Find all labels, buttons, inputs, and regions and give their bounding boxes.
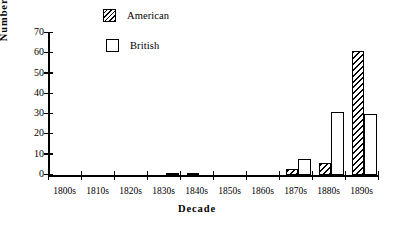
x-axis-title: Decade bbox=[0, 203, 394, 214]
y-tick-mark bbox=[44, 32, 53, 33]
x-tick-label: 1890s bbox=[340, 186, 384, 197]
legend-item-american: American bbox=[103, 8, 169, 22]
y-axis-title: Number of Papers bbox=[0, 0, 9, 58]
legend-swatch-american-icon bbox=[103, 9, 116, 22]
x-tick-mark bbox=[345, 171, 346, 180]
y-tick-label: 20 bbox=[22, 127, 44, 139]
x-tick-mark bbox=[378, 171, 379, 180]
bar-american-1890s bbox=[352, 51, 364, 175]
legend-label-american: American bbox=[127, 9, 169, 22]
bar-british-1890s bbox=[364, 114, 376, 175]
y-tick-mark bbox=[44, 133, 53, 134]
x-tick-mark bbox=[213, 171, 214, 180]
y-tick-label: 10 bbox=[22, 148, 44, 160]
y-tick-label: 0 bbox=[22, 168, 44, 180]
x-tick-mark bbox=[48, 171, 49, 180]
y-tick-mark bbox=[44, 72, 53, 73]
bar-american-1840s bbox=[187, 173, 199, 175]
x-tick-mark bbox=[312, 171, 313, 180]
y-tick-mark bbox=[44, 52, 53, 53]
bar-american-1880s bbox=[319, 163, 331, 175]
x-tick-mark bbox=[279, 171, 280, 180]
x-tick-mark bbox=[81, 171, 82, 180]
x-tick-mark bbox=[114, 171, 115, 180]
y-tick-mark bbox=[44, 113, 53, 114]
bar-american-1870s bbox=[286, 169, 298, 175]
bar-british-1830s bbox=[166, 173, 178, 175]
y-tick-label: 30 bbox=[22, 107, 44, 119]
chart-figure: American British Number of Papers 010203… bbox=[0, 0, 394, 225]
plot-area: 010203040506070 1800s1810s1820s1830s1840… bbox=[48, 33, 378, 175]
y-tick-label: 40 bbox=[22, 87, 44, 99]
x-tick-mark bbox=[147, 171, 148, 180]
y-tick-label: 50 bbox=[22, 67, 44, 79]
y-tick-mark bbox=[44, 93, 53, 94]
y-tick-label: 70 bbox=[22, 26, 44, 38]
bar-british-1880s bbox=[331, 112, 343, 175]
y-tick-mark bbox=[44, 153, 53, 154]
x-tick-mark bbox=[180, 171, 181, 180]
x-tick-mark bbox=[246, 171, 247, 180]
y-tick-label: 60 bbox=[22, 46, 44, 58]
bar-british-1870s bbox=[298, 159, 310, 175]
